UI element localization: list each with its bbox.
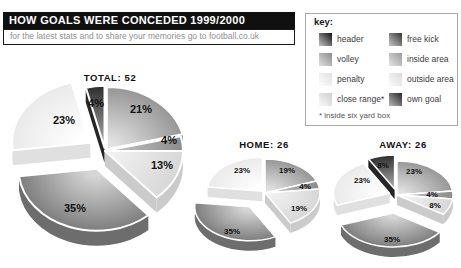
key-item-label: free kick xyxy=(407,34,439,44)
pie-percent-label: 23% xyxy=(354,176,370,185)
pie-title: TOTAL: 52 xyxy=(84,72,137,83)
key-item-own-goal: own goal xyxy=(389,89,454,109)
infographic: HOW GOALS WERE CONCEDED 1999/2000 for th… xyxy=(0,0,461,268)
key-swatch-outside-area xyxy=(389,73,402,86)
key-item-penalty: penalty xyxy=(319,69,389,89)
pie-percent-label: 23% xyxy=(406,167,422,176)
key-swatch-own-goal xyxy=(389,93,402,106)
pie-percent-label: 23% xyxy=(53,114,75,126)
key-item-label: header xyxy=(337,34,363,44)
key-swatch-inside-area xyxy=(389,53,402,66)
key-item-outside-area: outside area xyxy=(389,69,454,89)
key-swatch-free-kick xyxy=(389,33,402,46)
key-item-inside-area: inside area xyxy=(389,49,454,69)
legend-title: key: xyxy=(314,16,333,27)
pie-total: 21%4%13%35%23%4%TOTAL: 52 xyxy=(12,72,183,246)
pie-home: 19%4%19%35%23%HOME: 26 xyxy=(195,139,320,251)
key-item-volley: volley xyxy=(319,49,389,69)
pie-away: 23%4%8%35%23%8%AWAY: 26 xyxy=(334,139,453,257)
legend-footnote: * inside six yard box xyxy=(319,111,390,120)
pie-percent-label: 21% xyxy=(130,103,152,115)
pie-percent-label: 4% xyxy=(161,134,177,146)
pie-percent-label: 4% xyxy=(426,190,438,199)
pie-title: AWAY: 26 xyxy=(379,139,427,150)
key-item-label: outside area xyxy=(407,74,454,84)
key-item-label: close range* xyxy=(337,94,384,104)
key-item-free-kick: free kick xyxy=(389,29,454,49)
key-swatch-header xyxy=(319,33,332,46)
key-item-label: own goal xyxy=(407,94,441,104)
pie-percent-label: 19% xyxy=(291,204,307,213)
pie-percent-label: 19% xyxy=(279,166,295,175)
pie-percent-label: 13% xyxy=(151,159,173,171)
legend-box: key: headervolleypenaltyclose range*free… xyxy=(305,13,458,126)
pie-percent-label: 4% xyxy=(299,182,311,191)
key-item-header: header xyxy=(319,29,389,49)
key-swatch-penalty xyxy=(319,73,332,86)
pie-title: HOME: 26 xyxy=(239,139,289,150)
key-item-label: volley xyxy=(337,54,359,64)
pie-percent-label: 8% xyxy=(377,161,389,170)
pie-percent-label: 23% xyxy=(234,166,250,175)
key-grid: headervolleypenaltyclose range*free kick… xyxy=(319,29,454,109)
pie-percent-label: 35% xyxy=(224,227,240,236)
pie-percent-label: 8% xyxy=(429,201,441,210)
key-item-close-range: close range* xyxy=(319,89,389,109)
pie-slice-outside_area xyxy=(12,83,90,151)
pie-percent-label: 35% xyxy=(64,202,86,214)
key-swatch-close-range xyxy=(319,93,332,106)
key-item-label: inside area xyxy=(407,54,449,64)
pie-percent-label: 35% xyxy=(384,235,400,244)
key-item-label: penalty xyxy=(337,74,364,84)
key-swatch-volley xyxy=(319,53,332,66)
pie-percent-label: 4% xyxy=(88,97,104,109)
